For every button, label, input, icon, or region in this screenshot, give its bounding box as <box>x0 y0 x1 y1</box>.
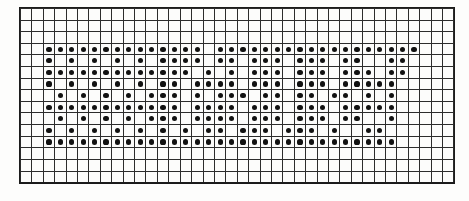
stitch-cell-empty[interactable] <box>192 67 203 79</box>
stitch-cell-empty[interactable] <box>340 125 351 137</box>
stitch-cell-empty[interactable] <box>249 32 260 44</box>
stitch-cell-filled[interactable] <box>214 90 225 102</box>
stitch-cell-empty[interactable] <box>100 125 111 137</box>
stitch-cell-filled[interactable] <box>226 136 237 148</box>
stitch-cell-empty[interactable] <box>146 148 157 160</box>
stitch-cell-filled[interactable] <box>135 55 146 67</box>
stitch-cell-filled[interactable] <box>340 67 351 79</box>
stitch-cell-filled[interactable] <box>157 78 168 90</box>
stitch-cell-empty[interactable] <box>363 113 374 125</box>
stitch-cell-empty[interactable] <box>443 78 454 90</box>
stitch-cell-empty[interactable] <box>328 148 339 160</box>
stitch-cell-empty[interactable] <box>271 32 282 44</box>
stitch-cell-filled[interactable] <box>386 43 397 55</box>
stitch-cell-empty[interactable] <box>192 32 203 44</box>
stitch-cell-filled[interactable] <box>260 55 271 67</box>
stitch-cell-empty[interactable] <box>237 148 248 160</box>
stitch-cell-empty[interactable] <box>340 159 351 171</box>
stitch-cell-empty[interactable] <box>100 32 111 44</box>
stitch-cell-empty[interactable] <box>374 171 385 183</box>
stitch-cell-empty[interactable] <box>328 32 339 44</box>
stitch-cell-filled[interactable] <box>249 67 260 79</box>
stitch-cell-empty[interactable] <box>431 171 442 183</box>
stitch-cell-empty[interactable] <box>169 20 180 32</box>
stitch-cell-filled[interactable] <box>328 125 339 137</box>
stitch-cell-filled[interactable] <box>43 55 54 67</box>
stitch-cell-empty[interactable] <box>408 32 419 44</box>
stitch-cell-filled[interactable] <box>226 78 237 90</box>
stitch-cell-empty[interactable] <box>420 113 431 125</box>
stitch-cell-empty[interactable] <box>112 32 123 44</box>
stitch-cell-filled[interactable] <box>374 78 385 90</box>
stitch-cell-filled[interactable] <box>363 90 374 102</box>
stitch-cell-filled[interactable] <box>328 90 339 102</box>
stitch-cell-empty[interactable] <box>66 113 77 125</box>
stitch-cell-filled[interactable] <box>203 78 214 90</box>
stitch-cell-empty[interactable] <box>317 32 328 44</box>
stitch-cell-filled[interactable] <box>146 136 157 148</box>
stitch-cell-empty[interactable] <box>169 125 180 137</box>
stitch-cell-filled[interactable] <box>340 55 351 67</box>
stitch-cell-empty[interactable] <box>203 32 214 44</box>
stitch-cell-filled[interactable] <box>66 43 77 55</box>
stitch-cell-empty[interactable] <box>283 159 294 171</box>
stitch-cell-filled[interactable] <box>340 113 351 125</box>
stitch-cell-empty[interactable] <box>340 9 351 21</box>
stitch-cell-empty[interactable] <box>294 20 305 32</box>
stitch-cell-empty[interactable] <box>89 171 100 183</box>
stitch-cell-filled[interactable] <box>317 113 328 125</box>
stitch-cell-filled[interactable] <box>271 136 282 148</box>
stitch-cell-filled[interactable] <box>100 101 111 113</box>
stitch-cell-empty[interactable] <box>237 78 248 90</box>
stitch-cell-filled[interactable] <box>157 67 168 79</box>
stitch-cell-empty[interactable] <box>237 159 248 171</box>
stitch-cell-empty[interactable] <box>420 90 431 102</box>
stitch-cell-empty[interactable] <box>21 78 32 90</box>
stitch-cell-empty[interactable] <box>226 171 237 183</box>
stitch-cell-empty[interactable] <box>135 90 146 102</box>
stitch-cell-filled[interactable] <box>317 67 328 79</box>
stitch-cell-filled[interactable] <box>351 136 362 148</box>
stitch-cell-filled[interactable] <box>180 67 191 79</box>
stitch-cell-empty[interactable] <box>351 148 362 160</box>
stitch-cell-filled[interactable] <box>192 136 203 148</box>
stitch-cell-empty[interactable] <box>363 20 374 32</box>
stitch-cell-empty[interactable] <box>66 9 77 21</box>
stitch-cell-filled[interactable] <box>55 113 66 125</box>
stitch-cell-empty[interactable] <box>317 148 328 160</box>
stitch-cell-empty[interactable] <box>146 171 157 183</box>
stitch-cell-empty[interactable] <box>408 55 419 67</box>
stitch-cell-empty[interactable] <box>135 113 146 125</box>
stitch-cell-filled[interactable] <box>112 101 123 113</box>
stitch-cell-empty[interactable] <box>443 136 454 148</box>
stitch-cell-empty[interactable] <box>283 148 294 160</box>
stitch-cell-empty[interactable] <box>271 125 282 137</box>
stitch-cell-filled[interactable] <box>146 43 157 55</box>
stitch-cell-empty[interactable] <box>328 78 339 90</box>
stitch-cell-empty[interactable] <box>408 90 419 102</box>
stitch-cell-empty[interactable] <box>214 148 225 160</box>
stitch-cell-empty[interactable] <box>203 43 214 55</box>
stitch-cell-empty[interactable] <box>431 43 442 55</box>
stitch-cell-empty[interactable] <box>203 20 214 32</box>
stitch-cell-filled[interactable] <box>112 43 123 55</box>
stitch-cell-filled[interactable] <box>363 101 374 113</box>
stitch-cell-empty[interactable] <box>397 171 408 183</box>
stitch-cell-empty[interactable] <box>420 171 431 183</box>
stitch-cell-filled[interactable] <box>283 43 294 55</box>
stitch-cell-empty[interactable] <box>21 32 32 44</box>
stitch-cell-empty[interactable] <box>55 159 66 171</box>
stitch-cell-filled[interactable] <box>351 43 362 55</box>
stitch-cell-empty[interactable] <box>420 55 431 67</box>
stitch-cell-filled[interactable] <box>214 136 225 148</box>
stitch-cell-empty[interactable] <box>55 32 66 44</box>
stitch-cell-filled[interactable] <box>43 136 54 148</box>
stitch-cell-empty[interactable] <box>169 171 180 183</box>
stitch-cell-empty[interactable] <box>317 9 328 21</box>
stitch-cell-filled[interactable] <box>123 43 134 55</box>
stitch-cell-filled[interactable] <box>351 67 362 79</box>
stitch-cell-empty[interactable] <box>294 171 305 183</box>
stitch-cell-filled[interactable] <box>203 67 214 79</box>
stitch-cell-filled[interactable] <box>89 67 100 79</box>
stitch-cell-empty[interactable] <box>408 9 419 21</box>
